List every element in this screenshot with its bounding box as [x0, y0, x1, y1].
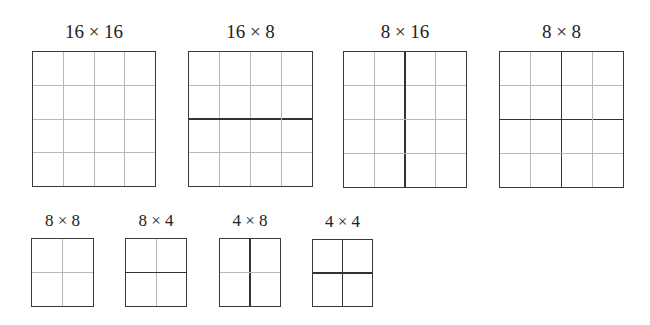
block-frame	[499, 51, 624, 188]
block-label: 16 × 16	[32, 21, 156, 43]
grid-line-horizontal	[344, 119, 466, 120]
grid-line-vertical	[124, 52, 125, 186]
block-label: 8 × 4	[125, 211, 187, 231]
block-8x8-small: 8 × 8	[31, 238, 94, 307]
block-16x8: 16 × 8	[188, 51, 313, 187]
block-8x4: 8 × 4	[125, 238, 187, 307]
partition-line-horizontal	[313, 272, 372, 274]
block-frame	[312, 239, 373, 307]
block-label: 8 × 8	[499, 21, 624, 43]
grid-line-horizontal	[344, 153, 466, 154]
grid-line-horizontal	[189, 152, 312, 153]
block-frame	[32, 51, 156, 187]
block-frame	[219, 238, 281, 307]
block-label: 8 × 16	[343, 21, 467, 43]
block-label: 4 × 4	[312, 212, 373, 232]
block-4x4: 4 × 4	[312, 239, 373, 307]
block-label: 8 × 8	[31, 211, 94, 231]
grid-line-horizontal	[500, 153, 623, 154]
grid-line-vertical	[281, 52, 282, 186]
block-label: 16 × 8	[188, 21, 313, 43]
grid-line-horizontal	[220, 272, 280, 273]
block-16x16: 16 × 16	[32, 51, 156, 187]
block-frame	[343, 51, 467, 188]
block-8x16: 8 × 16	[343, 51, 467, 188]
block-4x8: 4 × 8	[219, 238, 281, 307]
partition-line-horizontal	[126, 272, 186, 274]
grid-line-horizontal	[33, 152, 155, 153]
block-8x8: 8 × 8	[499, 51, 624, 188]
grid-line-horizontal	[32, 272, 93, 273]
grid-line-horizontal	[33, 119, 155, 120]
grid-line-vertical	[435, 52, 436, 187]
block-frame	[31, 238, 94, 307]
partition-line-horizontal	[500, 119, 623, 121]
block-frame	[125, 238, 187, 307]
block-frame	[188, 51, 313, 187]
partition-line-horizontal	[189, 118, 312, 120]
block-label: 4 × 8	[219, 211, 281, 231]
grid-line-vertical	[592, 52, 593, 187]
